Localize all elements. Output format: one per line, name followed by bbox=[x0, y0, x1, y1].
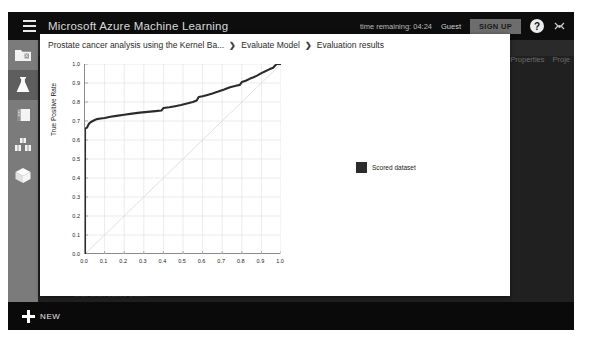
chevron-right-icon: ❯ bbox=[229, 41, 236, 50]
trained-models-boxes-icon bbox=[14, 137, 32, 153]
sidebar-item-trained-models[interactable] bbox=[8, 130, 38, 160]
breadcrumb-item-experiment[interactable]: Prostate cancer analysis using the Kerne… bbox=[48, 40, 224, 50]
y-axis-label: True Positive Rate bbox=[50, 83, 57, 136]
y-tick-label: 0.3 bbox=[72, 194, 80, 200]
x-tick-label: 0.7 bbox=[217, 258, 225, 264]
x-tick-label: 0.4 bbox=[159, 258, 167, 264]
x-tick-label: 0.2 bbox=[119, 258, 127, 264]
y-tick-label: 0.6 bbox=[72, 137, 80, 143]
new-button-label: NEW bbox=[40, 312, 60, 321]
tab-project[interactable]: Proje bbox=[552, 55, 570, 64]
chart-legend: Scored dataset bbox=[352, 160, 420, 175]
dialog-body: True Positive Rate 0.00.10.20.30.40.50.6… bbox=[40, 56, 510, 296]
brand-title: Microsoft Azure Machine Learning bbox=[48, 20, 228, 32]
cube-package-icon bbox=[14, 167, 32, 184]
roc-curve-chart: True Positive Rate 0.00.10.20.30.40.50.6… bbox=[46, 58, 296, 286]
y-tick-label: 0.2 bbox=[72, 213, 80, 219]
y-tick-label: 0.7 bbox=[72, 118, 80, 124]
x-tick-label: 1.0 bbox=[276, 258, 284, 264]
x-tick-label: 0.8 bbox=[237, 258, 245, 264]
hamburger-bar bbox=[23, 30, 36, 32]
hamburger-bar bbox=[23, 25, 36, 27]
x-tick-label: 0.5 bbox=[178, 258, 186, 264]
azure-ml-window: Microsoft Azure Machine Learning time re… bbox=[8, 12, 574, 330]
x-tick-label: 0.9 bbox=[257, 258, 265, 264]
screenshot-root: Microsoft Azure Machine Learning time re… bbox=[0, 0, 590, 342]
y-tick-label: 0.8 bbox=[72, 99, 80, 105]
breadcrumb-item-current: Evaluation results bbox=[317, 40, 384, 50]
left-icon-rail bbox=[8, 40, 38, 302]
dataset-book-icon bbox=[15, 107, 32, 123]
ghost-right-tabs: Properties Proje bbox=[510, 55, 570, 64]
y-tick-label: 0.1 bbox=[72, 232, 80, 238]
hamburger-bar bbox=[23, 20, 36, 22]
bottom-command-bar: NEW bbox=[8, 302, 574, 330]
chevron-right-icon: ❯ bbox=[305, 41, 312, 50]
guest-label: Guest bbox=[441, 22, 461, 31]
y-tick-label: 1.0 bbox=[72, 61, 80, 67]
new-button[interactable]: NEW bbox=[22, 310, 60, 323]
plot-svg bbox=[85, 64, 281, 254]
plus-icon bbox=[22, 310, 35, 323]
feedback-smiley-icon[interactable] bbox=[553, 20, 566, 33]
tab-properties[interactable]: Properties bbox=[510, 55, 544, 64]
x-tick-label: 0.6 bbox=[198, 258, 206, 264]
y-axis-ticks: 0.00.10.20.30.40.50.60.70.80.91.0 bbox=[60, 58, 82, 258]
evaluation-results-dialog: Prostate cancer analysis using the Kerne… bbox=[40, 34, 510, 296]
flask-experiment-icon bbox=[14, 76, 32, 94]
y-tick-label: 0.5 bbox=[72, 156, 80, 162]
x-axis-ticks: 0.00.10.20.30.40.50.60.70.80.91.0 bbox=[84, 256, 280, 268]
legend-swatch bbox=[356, 162, 367, 173]
folder-projects-icon bbox=[14, 47, 32, 63]
breadcrumb-item-module[interactable]: Evaluate Model bbox=[241, 40, 300, 50]
sidebar-item-projects[interactable] bbox=[8, 40, 38, 70]
x-tick-label: 0.0 bbox=[80, 258, 88, 264]
sidebar-item-datasets[interactable] bbox=[8, 100, 38, 130]
y-tick-label: 0.4 bbox=[72, 175, 80, 181]
legend-label: Scored dataset bbox=[372, 164, 416, 171]
y-tick-label: 0.0 bbox=[72, 251, 80, 257]
sidebar-item-settings[interactable] bbox=[8, 160, 38, 190]
x-tick-label: 0.1 bbox=[100, 258, 108, 264]
time-remaining-label: time remaining: 04:24 bbox=[360, 22, 432, 31]
sidebar-item-experiments[interactable] bbox=[8, 70, 38, 100]
breadcrumb: Prostate cancer analysis using the Kerne… bbox=[40, 34, 510, 56]
x-tick-label: 0.3 bbox=[139, 258, 147, 264]
y-tick-label: 0.9 bbox=[72, 80, 80, 86]
sign-up-button[interactable]: SIGN UP bbox=[470, 19, 521, 34]
plot-area bbox=[84, 64, 280, 254]
help-icon[interactable]: ? bbox=[530, 19, 544, 33]
